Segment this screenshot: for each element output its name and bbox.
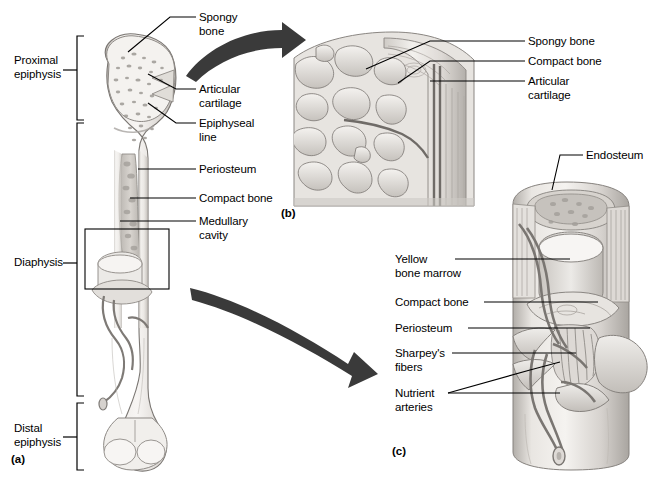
arrow-a-to-c (190, 288, 378, 388)
panel-c-tag: (c) (392, 445, 406, 457)
label-a-periosteum: Periosteum (199, 163, 256, 177)
bone-anatomy-figure: Proximal epiphysis Diaphysis Distal epip… (0, 0, 667, 480)
panel-a-tag: (a) (11, 453, 25, 465)
label-b-compact-bone: Compact bone (528, 55, 602, 69)
label-a-medullary-cavity: Medullary cavity (199, 215, 248, 242)
label-b-spongy-bone: Spongy bone (528, 35, 595, 49)
label-c-periosteum: Periosteum (395, 322, 452, 336)
periosteum-flap-right (595, 335, 648, 392)
label-b-articular-cartilage: Articular cartilage (528, 75, 571, 102)
label-a-compact-bone: Compact bone (199, 192, 273, 206)
panel-b-tag: (b) (281, 207, 296, 219)
panel-a-long-bone-artwork (78, 28, 198, 478)
region-label-distal-epiphysis: Distal epiphysis (14, 422, 61, 449)
label-c-endosteum: Endosteum (586, 149, 643, 163)
label-c-compact-bone: Compact bone (395, 296, 469, 310)
panel-c-diaphysis-artwork (495, 168, 667, 473)
label-a-articular-cartilage: Articular cartilage (199, 83, 242, 110)
panel-b-spongy-bone-artwork (288, 30, 498, 210)
label-c-nutrient-arteries: Nutrient arteries (395, 387, 434, 414)
label-a-epiphyseal-line: Epiphyseal line (199, 117, 254, 144)
label-c-sharpeys-fibers: Sharpey's fibers (395, 347, 445, 374)
region-label-proximal-epiphysis: Proximal epiphysis (14, 54, 61, 81)
label-c-yellow-bone-marrow: Yellow bone marrow (395, 253, 461, 280)
label-a-spongy-bone: Spongy bone (199, 11, 237, 38)
region-label-diaphysis: Diaphysis (14, 256, 63, 270)
